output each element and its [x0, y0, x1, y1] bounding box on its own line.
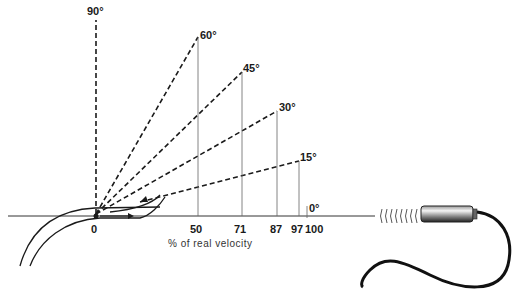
doppler-angle-diagram: 90° 60° 45° 30° 15° 0° 0 50 71 87 97 100… [0, 0, 521, 301]
transducer-probe-icon [421, 206, 473, 222]
ray-15 [140, 161, 299, 202]
tick-label-97: 97 [291, 224, 303, 235]
axis-label: % of real velocity [168, 238, 253, 249]
tick-label-0: 0 [91, 224, 97, 235]
ray-45 [96, 72, 242, 214]
angle-label-90: 90° [87, 6, 104, 17]
angle-label-45: 45° [243, 63, 260, 74]
probe-cable [362, 212, 510, 287]
ultrasound-waves [381, 209, 418, 223]
angle-label-15: 15° [300, 152, 317, 163]
angle-label-60: 60° [200, 30, 217, 41]
ray-30 [96, 111, 277, 214]
vessel-inner-curve [110, 195, 160, 212]
ray-15-arrowhead-icon [140, 196, 148, 202]
ray-60 [96, 37, 198, 214]
angle-label-30: 30° [279, 102, 296, 113]
probe-tip [473, 209, 477, 219]
tick-label-100: 100 [305, 224, 323, 235]
diagram-graphics [0, 0, 521, 301]
tick-label-71: 71 [234, 224, 246, 235]
origin-point [94, 214, 99, 219]
tick-label-50: 50 [190, 224, 202, 235]
angle-label-0: 0° [309, 203, 320, 214]
tick-label-87: 87 [270, 224, 282, 235]
